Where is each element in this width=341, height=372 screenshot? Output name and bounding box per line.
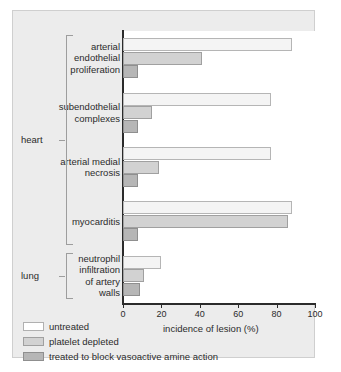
legend-label-treated: treated to block vasoactive amine action (49, 351, 218, 363)
bar-3-2 (123, 228, 138, 241)
x-tick-20 (161, 304, 162, 308)
legend-label-untreated: untreated (49, 321, 89, 333)
bracket-heart (66, 35, 73, 245)
bar-1-1 (123, 106, 152, 119)
x-tick-60 (238, 304, 239, 308)
x-tick-label-60: 60 (223, 309, 253, 319)
bar-0-1 (123, 52, 202, 65)
category-label-line: neutrophil (28, 253, 120, 265)
bar-2-0 (123, 147, 271, 160)
bracket-lung (66, 253, 73, 299)
category-label-0: arterialendothelialproliferation (28, 41, 120, 76)
bracket-tick-lung (59, 276, 65, 277)
bar-4-1 (123, 269, 144, 282)
category-label-line: arterial medial (28, 156, 120, 168)
category-label-line: necrosis (28, 167, 120, 179)
category-label-line: complexes (28, 113, 120, 125)
bar-1-0 (123, 93, 271, 106)
legend-swatch-treated (23, 352, 44, 361)
bar-4-2 (123, 283, 140, 296)
legend-item-treated: treated to block vasoactive amine action (23, 351, 308, 364)
bar-3-0 (123, 201, 292, 214)
legend-label-platelet-depleted: platelet depleted (49, 336, 119, 348)
legend-swatch-platelet-depleted (23, 337, 44, 346)
category-label-2: arterial medialnecrosis (28, 156, 120, 179)
bar-2-1 (123, 161, 159, 174)
x-tick-label-20: 20 (146, 309, 176, 319)
chart-figure: 020406080100 arterialendothelialprolifer… (12, 10, 315, 358)
x-tick-label-80: 80 (262, 309, 292, 319)
x-tick-label-40: 40 (185, 309, 215, 319)
category-label-line: proliferation (28, 64, 120, 76)
x-tick-40 (200, 304, 201, 308)
bracket-tick-heart (59, 140, 65, 141)
category-label-4: neutrophilinfiltrationof arterywalls (28, 253, 120, 299)
category-label-1: subendothelialcomplexes (28, 101, 120, 124)
category-label-line: walls (28, 287, 120, 299)
category-label-line: arterial (28, 41, 120, 53)
bar-0-2 (123, 65, 138, 78)
organ-label-heart: heart (21, 134, 43, 145)
legend-item-untreated: untreated (23, 321, 308, 334)
bar-2-2 (123, 174, 138, 187)
x-tick-label-100: 100 (300, 309, 330, 319)
legend-item-platelet-depleted: platelet depleted (23, 336, 308, 349)
legend-swatch-untreated (23, 322, 44, 331)
chart-legend: untreated platelet depleted treated to b… (23, 321, 308, 366)
x-tick-100 (315, 304, 316, 308)
x-tick-0 (123, 304, 124, 308)
bar-4-0 (123, 256, 161, 269)
category-label-line: subendothelial (28, 101, 120, 113)
bar-1-2 (123, 120, 138, 133)
x-tick-80 (277, 304, 278, 308)
category-label-line: myocarditis (28, 216, 120, 228)
x-tick-label-0: 0 (108, 309, 138, 319)
category-label-3: myocarditis (28, 216, 120, 228)
organ-label-lung: lung (21, 270, 39, 281)
category-label-line: of artery (28, 276, 120, 288)
category-label-line: endothelial (28, 52, 120, 64)
category-label-line: infiltration (28, 264, 120, 276)
bar-0-0 (123, 38, 292, 51)
bar-3-1 (123, 215, 288, 228)
x-axis-line (122, 303, 316, 305)
